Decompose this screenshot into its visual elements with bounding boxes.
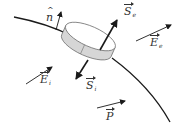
label-e-i: Ei — [40, 74, 51, 86]
label-normal: ^n — [46, 12, 53, 23]
label-s-e: Se — [124, 6, 136, 18]
s-i-arrow — [76, 60, 88, 79]
label-e-e: Ee — [150, 37, 163, 49]
label-p: P — [106, 111, 113, 122]
normal-arrow — [56, 12, 61, 30]
pillbox-diagram — [0, 0, 182, 128]
pillbox — [58, 16, 120, 65]
label-s-i: Si — [86, 80, 96, 92]
p-arrow — [97, 101, 125, 108]
